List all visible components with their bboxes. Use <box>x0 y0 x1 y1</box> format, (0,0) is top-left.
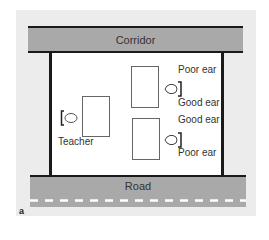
road-band: Road <box>30 175 246 207</box>
teacher-desk <box>82 96 110 137</box>
figure-label: a <box>19 206 24 216</box>
teacher-head-icon <box>60 109 80 127</box>
student-desk-bottom <box>132 118 160 160</box>
ear-label-bottom-1: Good ear <box>178 97 220 108</box>
student-desk-top <box>131 66 159 108</box>
corridor-label: Corridor <box>116 34 156 46</box>
student-head-top-icon <box>164 80 184 98</box>
ear-label-top-1: Poor ear <box>178 64 216 75</box>
ear-label-bottom-2: Poor ear <box>178 147 216 158</box>
teacher-label: Teacher <box>58 136 94 147</box>
road-lane-dashes <box>30 199 246 202</box>
corridor-band: Corridor <box>28 26 243 53</box>
ear-label-top-2: Good ear <box>178 114 220 125</box>
road-label: Road <box>125 180 151 192</box>
